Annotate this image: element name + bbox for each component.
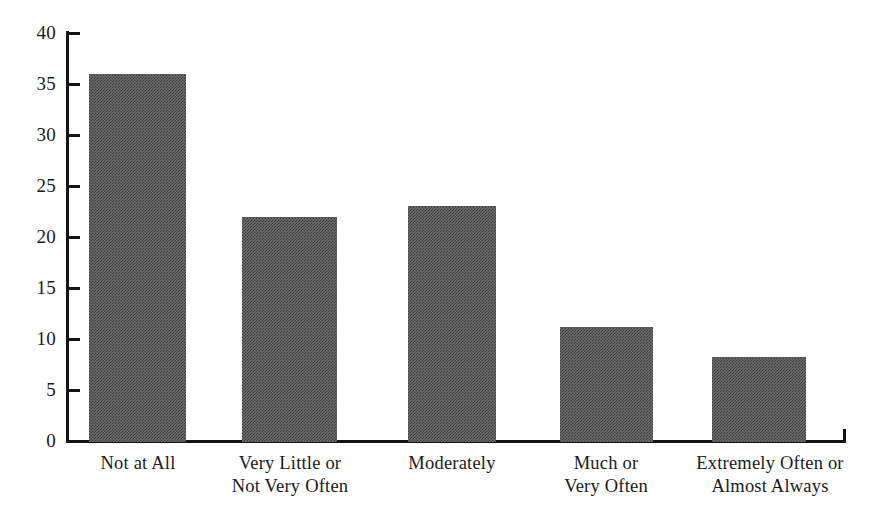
x-axis-category-label: Moderately	[384, 452, 520, 475]
plot-area: 4035302520151050 Not at AllVery Little o…	[0, 0, 872, 521]
x-axis-category-label: Much or Very Often	[536, 452, 676, 498]
bar	[712, 357, 806, 442]
bar	[408, 206, 496, 442]
x-axis-category-label: Very Little or Not Very Often	[214, 452, 366, 498]
x-axis-category-label: Extremely Often or Almost Always	[676, 452, 864, 498]
x-axis-category-label: Not at All	[72, 452, 204, 475]
bar	[242, 217, 337, 442]
bar-chart: 4035302520151050 Not at AllVery Little o…	[0, 0, 872, 521]
bars-layer	[0, 0, 872, 442]
bar	[560, 327, 653, 442]
bar	[89, 74, 186, 442]
